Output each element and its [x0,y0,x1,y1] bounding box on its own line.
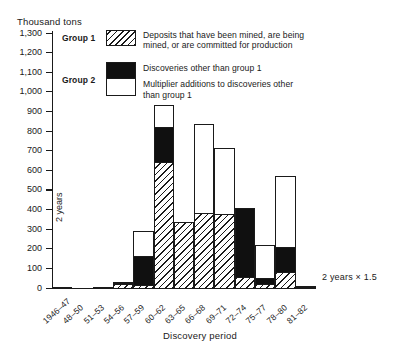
y-tick-label-800: 800 [2,126,42,136]
y-tick-label-1000: 1,000 [2,86,42,96]
bar-60-62 [154,105,174,288]
x-axis-title: Discovery period [0,330,400,341]
legend-group1-label: Group 1 [62,30,106,43]
legend-entry-group1: Group 1 Deposits that have been mined, a… [62,30,304,51]
bar-segment-mined [235,277,255,289]
bar-segment-mined [174,222,194,289]
bar-78-80 [275,176,295,288]
bar-54-56 [113,282,133,288]
y-tick-label-0: 0 [2,283,42,293]
bar-51-53 [93,287,113,288]
bar-segment-multiplier [275,176,295,249]
y-tick-label-1100: 1,100 [2,67,42,77]
legend-entry3-line1: Multiplier additions to discoveries othe… [143,73,293,89]
annotation-left-2-years: 2 years [54,192,64,222]
bar-72-74 [235,208,255,288]
x-tick-label-54-56: 54–56 [102,302,126,325]
y-tick-label-900: 900 [2,106,42,116]
bar-segment-multiplier [194,124,214,213]
bar-57-59 [133,231,153,288]
bar-1946-47 [52,287,72,288]
bar-segment-discoveries [154,127,174,162]
bar-segment-mined [154,162,174,290]
chart-container: Thousand tons 01002003004005006007008009… [0,0,400,352]
bar-69-71 [214,148,234,288]
y-tick-label-1200: 1,200 [2,47,42,57]
bar-segment-multiplier [214,148,234,215]
legend-swatch-hatched [106,30,136,46]
bar-segment-discoveries [235,208,255,279]
annotation-right-2-years-x15: 2 years × 1.5 [322,272,377,282]
bar-segment-mined [214,214,234,290]
bar-segment-mined [275,272,295,289]
x-tick-label-63-65: 63–65 [163,302,187,325]
y-tick-label-600: 600 [2,165,42,175]
legend-swatch-black [106,62,136,79]
x-tick-label-51-53: 51–53 [82,302,106,325]
legend-group2-text: Discoveries other than group 1 Multiplie… [136,62,293,100]
bar-segment-multiplier [255,245,275,279]
x-axis-ticks: 1946–4748–5051–5354–5657–5960–6263–6566–… [52,289,316,334]
y-tick-label-100: 100 [2,263,42,273]
bar-75-77 [255,245,275,288]
bar-segment-mined [194,213,214,290]
x-tick-label-66-68: 66–68 [183,302,207,325]
x-tick-label-78-80: 78–80 [264,302,288,325]
x-tick-label-75-77: 75–77 [244,302,268,325]
x-tick-label-81-82: 81–82 [285,302,309,325]
legend-entry1-line1: Deposits that have been mined, are being [143,30,304,40]
bar-segment-discoveries [275,247,295,273]
x-tick-label-72-74: 72–74 [224,302,248,325]
legend-entry2-line1: Discoveries other than group 1 [143,62,293,73]
x-tick-label-69-71: 69–71 [203,302,227,325]
y-axis-title: Thousand tons [17,16,82,27]
y-tick-label-500: 500 [2,184,42,194]
legend-swatch-white [106,79,136,96]
bar-segment-multiplier [154,105,174,129]
bar-segment-multiplier [133,231,153,257]
y-tick-label-300: 300 [2,224,42,234]
x-tick-label-57-59: 57–59 [122,302,146,325]
legend-entry-group2: Group 2 Discoveries other than group 1 M… [62,62,293,100]
y-tick-label-400: 400 [2,204,42,214]
bar-63-65 [174,222,194,288]
bar-66-68 [194,124,214,288]
x-tick-label-60-62: 60–62 [142,302,166,325]
legend-swatch-black-white [106,62,136,96]
y-tick-label-200: 200 [2,243,42,253]
y-tick-label-700: 700 [2,145,42,155]
bar-81-82 [296,286,316,288]
y-tick-label-1300: 1,300 [2,28,42,38]
legend-entry1-line2: mined, or are committed for production [143,40,304,50]
legend-group2-label: Group 2 [62,62,106,85]
legend-group1-text: Deposits that have been mined, are being… [136,30,304,51]
bar-segment-discoveries [133,256,153,286]
legend-entry3-line2: than group 1 [143,90,293,100]
